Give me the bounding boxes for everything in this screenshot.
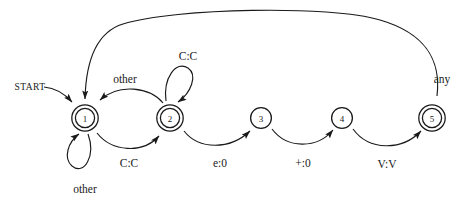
- state-3-label: 3: [259, 114, 264, 124]
- transition-start: [44, 87, 72, 102]
- transition-3-4: +:0: [272, 129, 333, 169]
- transition-2-3-path: [184, 131, 250, 145]
- transition-2-self-path: [166, 66, 193, 102]
- transition-3-4-label: +:0: [295, 157, 311, 169]
- transition-1-2-label: C:C: [120, 157, 139, 169]
- state-node-5[interactable]: 5: [419, 105, 445, 131]
- transition-start-path: [44, 87, 72, 102]
- transition-5-1-path: [85, 10, 438, 99]
- transition-2-self: C:C: [166, 50, 198, 102]
- transition-1-self: other: [67, 134, 97, 195]
- transition-1-self-path: [67, 134, 90, 169]
- state-5-label: 5: [430, 114, 435, 124]
- transition-4-5-path: [353, 129, 421, 146]
- transition-4-5-label: V:V: [378, 158, 398, 170]
- transition-2-self-label: C:C: [179, 50, 198, 62]
- state-node-3[interactable]: 3: [251, 108, 272, 129]
- state-1-label: 1: [83, 114, 88, 124]
- transition-4-5: V:V: [353, 129, 421, 170]
- transition-1-2-path: [97, 133, 159, 148]
- transition-2-1-path: [100, 89, 163, 103]
- transition-2-1-label: other: [113, 73, 137, 85]
- transition-5-1-label: any: [434, 73, 451, 86]
- transition-2-3-label: e:0: [213, 157, 227, 169]
- transition-2-3: e:0: [184, 131, 250, 169]
- state-4-label: 4: [340, 114, 345, 124]
- transition-5-1: any: [85, 10, 451, 99]
- transition-1-self-label: other: [73, 183, 97, 195]
- state-node-1[interactable]: 1: [72, 105, 98, 131]
- transition-1-2: C:C: [97, 133, 159, 169]
- state-node-4[interactable]: 4: [332, 108, 353, 129]
- start-label: START: [15, 82, 46, 92]
- state-2-label: 2: [168, 114, 173, 124]
- transition-3-4-path: [272, 129, 333, 144]
- diagram-canvas: any other C:C other C:C e:0: [0, 0, 461, 210]
- state-machine-diagram: any other C:C other C:C e:0: [0, 0, 461, 210]
- state-node-2[interactable]: 2: [157, 105, 183, 131]
- transition-2-1: other: [100, 73, 163, 103]
